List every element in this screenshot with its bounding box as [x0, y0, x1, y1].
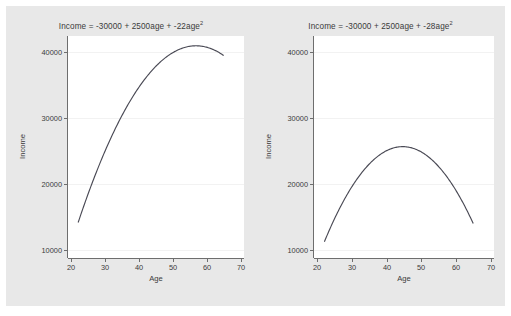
- y-tick-mark-left-30000: [64, 118, 67, 119]
- y-tick-label-right-30000: 30000: [272, 114, 308, 123]
- x-tick-mark-left-70: [241, 259, 242, 262]
- x-tick-mark-right-60: [456, 259, 457, 262]
- y-axis-spine-left: [67, 36, 68, 258]
- y-tick-mark-right-40000: [310, 52, 313, 53]
- x-tick-mark-right-70: [491, 259, 492, 262]
- chart-title-right: Income = -30000 + 2500age + -28age2: [256, 22, 505, 31]
- x-tick-label-left-70: 70: [237, 263, 245, 272]
- x-tick-mark-left-20: [71, 259, 72, 262]
- y-axis-spine-right: [313, 36, 314, 258]
- x-tick-mark-left-60: [207, 259, 208, 262]
- y-tick-mark-left-40000: [64, 52, 67, 53]
- y-axis-title-left: Income: [18, 127, 27, 167]
- chart-title-right-text: Income = -30000 + 2500age + -28age: [308, 22, 449, 31]
- y-tick-label-right-20000: 20000: [272, 180, 308, 189]
- x-axis-title-left: Age: [149, 274, 163, 283]
- y-tick-label-left-20000: 20000: [26, 180, 62, 189]
- x-tick-mark-right-50: [421, 259, 422, 262]
- x-tick-mark-right-30: [352, 259, 353, 262]
- x-tick-label-right-30: 30: [348, 263, 356, 272]
- chart-title-left-exponent: 2: [200, 20, 203, 26]
- x-tick-label-left-30: 30: [101, 263, 109, 272]
- graph-window: Income = -30000 + 2500age + -22age2 4000…: [6, 6, 505, 306]
- x-tick-label-right-20: 20: [313, 263, 321, 272]
- y-axis-title-right: Income: [264, 127, 273, 167]
- x-tick-label-left-40: 40: [135, 263, 143, 272]
- y-tick-mark-left-10000: [64, 250, 67, 251]
- x-tick-label-right-60: 60: [452, 263, 460, 272]
- chart-panel-left: Income = -30000 + 2500age + -22age2 4000…: [6, 6, 256, 306]
- x-tick-mark-left-40: [139, 259, 140, 262]
- plot-area-left: [68, 36, 244, 258]
- x-tick-mark-right-40: [387, 259, 388, 262]
- y-tick-label-right-40000: 40000: [272, 48, 308, 57]
- x-tick-label-left-20: 20: [67, 263, 75, 272]
- chart-title-left: Income = -30000 + 2500age + -22age2: [6, 22, 256, 31]
- y-tick-label-right-10000: 10000: [272, 246, 308, 255]
- plot-area-right: [314, 36, 494, 258]
- x-axis-spine-right: [314, 258, 494, 259]
- x-tick-label-right-70: 70: [487, 263, 495, 272]
- income-age-curve-right: [314, 36, 494, 258]
- x-axis-title-right: Age: [397, 274, 411, 283]
- chart-title-left-text: Income = -30000 + 2500age + -22age: [59, 22, 200, 31]
- x-tick-mark-right-20: [317, 259, 318, 262]
- income-age-curve-left: [68, 36, 244, 258]
- y-tick-label-left-40000: 40000: [26, 48, 62, 57]
- chart-panel-right: Income = -30000 + 2500age + -28age2 4000…: [256, 6, 505, 306]
- y-tick-label-left-10000: 10000: [26, 246, 62, 255]
- x-tick-mark-left-30: [105, 259, 106, 262]
- chart-title-right-exponent: 2: [449, 20, 452, 26]
- x-tick-label-right-40: 40: [383, 263, 391, 272]
- x-tick-mark-left-50: [173, 259, 174, 262]
- x-axis-spine-left: [68, 258, 244, 259]
- x-tick-label-right-50: 50: [417, 263, 425, 272]
- y-tick-mark-right-20000: [310, 184, 313, 185]
- x-tick-label-left-60: 60: [203, 263, 211, 272]
- y-tick-mark-right-30000: [310, 118, 313, 119]
- x-tick-label-left-50: 50: [169, 263, 177, 272]
- y-tick-label-left-30000: 30000: [26, 114, 62, 123]
- y-tick-mark-left-20000: [64, 184, 67, 185]
- y-tick-mark-right-10000: [310, 250, 313, 251]
